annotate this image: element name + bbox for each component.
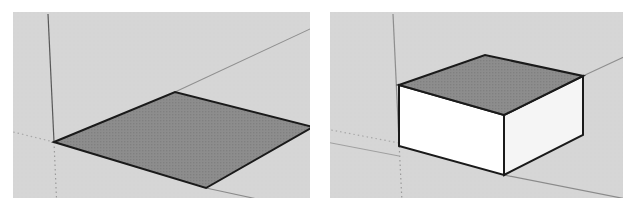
figure-container: SketchUp push-pull extrusion comparison … bbox=[0, 0, 635, 210]
flat-face-panel bbox=[13, 12, 310, 198]
flat-face-viewport bbox=[13, 12, 310, 198]
extruded-box-panel bbox=[330, 12, 623, 198]
extruded-box-viewport bbox=[330, 12, 623, 198]
